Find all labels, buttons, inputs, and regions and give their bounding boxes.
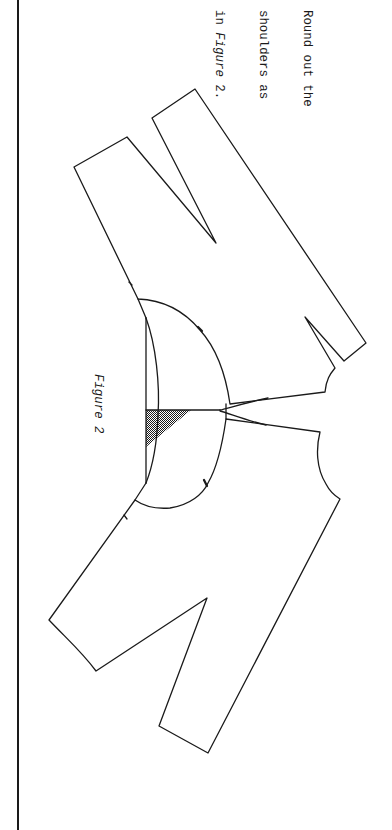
rounded-shoulder-curve xyxy=(146,318,159,483)
upper-bodice-piece xyxy=(74,89,366,404)
side-seam-line-upper xyxy=(138,299,146,318)
document-page: Round out the shoulders as in Figure 2. xyxy=(0,0,392,830)
figure-caption: Figure 2 xyxy=(91,374,105,434)
lower-notch-1 xyxy=(204,480,207,486)
hatched-overlap-area xyxy=(146,410,191,447)
pattern-diagram xyxy=(0,0,392,830)
side-seam-line-lower xyxy=(135,483,146,500)
lower-bodice-piece xyxy=(49,419,340,753)
